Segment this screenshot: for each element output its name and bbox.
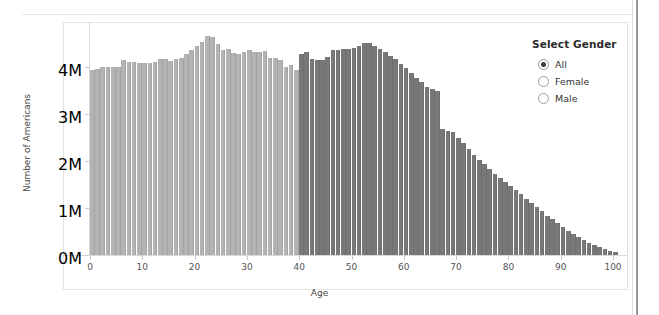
gender-radio-option-female[interactable]: Female xyxy=(538,73,628,90)
histogram-bar[interactable] xyxy=(320,60,325,255)
histogram-bar[interactable] xyxy=(163,59,168,255)
histogram-bar[interactable] xyxy=(111,67,116,255)
histogram-bar[interactable] xyxy=(268,58,273,255)
histogram-bar[interactable] xyxy=(294,70,299,255)
histogram-bar[interactable] xyxy=(252,52,257,255)
histogram-bar[interactable] xyxy=(100,67,105,255)
gender-radio-option-all[interactable]: All xyxy=(538,56,628,73)
histogram-bar[interactable] xyxy=(461,143,466,255)
histogram-bar[interactable] xyxy=(383,52,388,256)
histogram-bar[interactable] xyxy=(325,57,330,255)
histogram-bar[interactable] xyxy=(592,245,597,255)
histogram-bar[interactable] xyxy=(414,78,419,255)
histogram-bar[interactable] xyxy=(545,216,550,255)
histogram-bar[interactable] xyxy=(121,60,126,255)
histogram-bar[interactable] xyxy=(440,129,445,255)
histogram-bar[interactable] xyxy=(278,60,283,255)
histogram-bar[interactable] xyxy=(247,50,252,255)
histogram-bar[interactable] xyxy=(346,49,351,255)
histogram-bar[interactable] xyxy=(603,249,608,255)
histogram-bar[interactable] xyxy=(409,73,414,255)
radio-button-icon[interactable] xyxy=(538,76,549,87)
histogram-bar[interactable] xyxy=(168,61,173,255)
histogram-bar[interactable] xyxy=(467,149,472,255)
histogram-bar[interactable] xyxy=(550,219,555,255)
histogram-bar[interactable] xyxy=(529,203,534,255)
histogram-bar[interactable] xyxy=(482,164,487,255)
histogram-bar[interactable] xyxy=(200,42,205,255)
histogram-bar[interactable] xyxy=(508,186,513,255)
histogram-bar[interactable] xyxy=(210,37,215,255)
histogram-bar[interactable] xyxy=(137,63,142,255)
histogram-bar[interactable] xyxy=(451,132,456,255)
histogram-bar[interactable] xyxy=(116,67,121,255)
histogram-bar[interactable] xyxy=(336,50,341,255)
radio-button-icon[interactable] xyxy=(538,59,549,70)
histogram-bar[interactable] xyxy=(388,56,393,255)
histogram-bar[interactable] xyxy=(90,70,95,255)
gender-filter-group[interactable]: Select Gender AllFemaleMale xyxy=(532,38,628,107)
histogram-bar[interactable] xyxy=(142,63,147,255)
histogram-bar[interactable] xyxy=(597,247,602,255)
radio-button-icon[interactable] xyxy=(538,93,549,104)
histogram-bar[interactable] xyxy=(132,62,137,255)
gender-radio-list[interactable]: AllFemaleMale xyxy=(532,56,628,107)
histogram-bar[interactable] xyxy=(555,223,560,255)
histogram-bar[interactable] xyxy=(331,50,336,255)
histogram-bar[interactable] xyxy=(341,49,346,255)
histogram-bar[interactable] xyxy=(503,182,508,255)
histogram-bar[interactable] xyxy=(362,43,367,255)
histogram-bar[interactable] xyxy=(487,169,492,255)
histogram-bar[interactable] xyxy=(106,67,111,255)
histogram-bar[interactable] xyxy=(184,54,189,255)
histogram-bar[interactable] xyxy=(289,65,294,255)
histogram-bar[interactable] xyxy=(425,87,430,255)
histogram-bar[interactable] xyxy=(216,44,221,255)
histogram-bar[interactable] xyxy=(524,199,529,255)
histogram-bar[interactable] xyxy=(472,155,477,255)
histogram-bar[interactable] xyxy=(95,69,100,255)
histogram-bar[interactable] xyxy=(127,62,132,255)
histogram-bar[interactable] xyxy=(535,207,540,255)
gender-radio-option-male[interactable]: Male xyxy=(538,90,628,107)
histogram-bar[interactable] xyxy=(189,50,194,255)
histogram-bar[interactable] xyxy=(257,52,262,255)
histogram-bar[interactable] xyxy=(273,58,278,255)
histogram-bar[interactable] xyxy=(148,63,153,255)
histogram-bar[interactable] xyxy=(456,138,461,256)
histogram-bar[interactable] xyxy=(446,131,451,255)
histogram-bar[interactable] xyxy=(519,194,524,255)
histogram-bar[interactable] xyxy=(393,59,398,255)
histogram-bar[interactable] xyxy=(571,234,576,255)
histogram-bar[interactable] xyxy=(404,68,409,255)
histogram-bar[interactable] xyxy=(357,46,362,255)
histogram-bar[interactable] xyxy=(242,52,247,256)
histogram-bar[interactable] xyxy=(179,58,184,255)
histogram-bar[interactable] xyxy=(372,46,377,255)
histogram-bar[interactable] xyxy=(493,174,498,255)
histogram-bar[interactable] xyxy=(352,48,357,255)
histogram-bar[interactable] xyxy=(608,251,613,255)
histogram-bar[interactable] xyxy=(299,54,304,255)
histogram-bar[interactable] xyxy=(158,59,163,255)
histogram-bar[interactable] xyxy=(419,82,424,255)
histogram-bar[interactable] xyxy=(540,211,545,255)
histogram-bar[interactable] xyxy=(566,231,571,255)
histogram-bar[interactable] xyxy=(315,60,320,255)
histogram-bar[interactable] xyxy=(498,178,503,255)
histogram-bar[interactable] xyxy=(174,59,179,255)
histogram-bar[interactable] xyxy=(477,160,482,255)
histogram-bar[interactable] xyxy=(231,53,236,255)
histogram-bar[interactable] xyxy=(304,52,309,255)
histogram-bar[interactable] xyxy=(582,240,587,255)
histogram-bar[interactable] xyxy=(587,243,592,255)
histogram-bar[interactable] xyxy=(221,50,226,255)
histogram-bar[interactable] xyxy=(399,64,404,255)
histogram-bar[interactable] xyxy=(284,67,289,255)
histogram-bar[interactable] xyxy=(263,51,268,255)
histogram-bar[interactable] xyxy=(367,43,372,255)
histogram-bar[interactable] xyxy=(514,190,519,255)
histogram-bar[interactable] xyxy=(153,62,158,255)
histogram-bar[interactable] xyxy=(435,91,440,255)
histogram-bar[interactable] xyxy=(236,54,241,255)
